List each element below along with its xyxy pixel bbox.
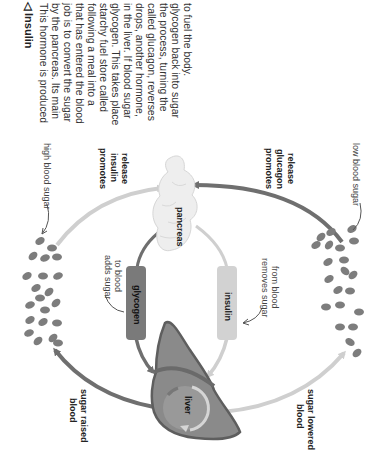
label-promotes-insulin-3: release: [120, 153, 131, 184]
caption-line: called glucagon, reverses: [145, 3, 157, 121]
label-liver: liver: [183, 396, 194, 415]
label-adds-sugar-1: adds sugar: [103, 255, 113, 300]
label-promotes-glucagon-2: glucagon: [275, 149, 286, 189]
label-insulin: insulin: [223, 292, 234, 321]
label-removes-sugar-1: removes sugar: [260, 258, 270, 318]
caption-line: the process, turning the: [157, 3, 169, 112]
label-sugar-raised-1: blood: [68, 398, 79, 423]
label-high-blood-sugar: high blood sugar: [42, 143, 52, 210]
caption-line: drops, another hormone,: [133, 3, 145, 117]
arrow-liver-to-low-sugar: [222, 353, 344, 412]
label-promotes-insulin-2: insulin: [109, 153, 120, 182]
arrow-low-sugar-to-pancreas: [194, 185, 342, 242]
label-promotes-insulin-1: promotes: [98, 148, 109, 189]
label-removes-sugar-2: from blood: [270, 266, 280, 309]
triangle-marker-icon: ◁: [23, 2, 35, 10]
caption-line: glycogen. This takes place: [109, 3, 121, 125]
connector-pancreas-insulin: [196, 226, 227, 268]
caption-line: glycogen back into sugar: [169, 3, 181, 118]
label-sugar-lowered-2: sugar lowered: [306, 389, 317, 450]
label-glycogen: glycogen: [132, 285, 143, 325]
blood-cells-low-sugar: [310, 223, 364, 358]
connector-insulin-liver: [208, 338, 227, 376]
label-adds-sugar-2: to blood: [113, 260, 123, 292]
caption-line: in the liver. If blood sugar: [121, 3, 133, 119]
caption-heading: ◁ Insulin: [22, 2, 35, 49]
caption-line: by the pancreas. Its main: [49, 3, 61, 119]
connector-glycogen-liver: [136, 338, 153, 372]
caption-line: following a meal into a: [85, 3, 97, 106]
caption-line: that has entered the blood: [73, 3, 85, 124]
diagram-stage: ◁ Insulin This hormone is produced by th…: [0, 0, 375, 468]
caption-line: This hormone is produced: [37, 3, 49, 123]
label-promotes-glucagon-3: release: [286, 153, 297, 184]
label-sugar-lowered-1: blood: [295, 404, 306, 429]
caption-line: to fuel the body.: [181, 3, 193, 76]
connector-pancreas-glycogen: [137, 233, 158, 268]
caption-line: job is to convert the sugar: [61, 3, 73, 122]
arrow-high-sugar-to-pancreas: [57, 188, 162, 245]
label-pancreas: pancreas: [175, 207, 186, 247]
caption-line: starchy fuel store called: [97, 3, 109, 112]
label-low-blood-sugar: low blood sugar: [351, 143, 361, 206]
label-promotes-glucagon-1: promotes: [264, 148, 275, 189]
blood-cells-high-sugar: [21, 235, 64, 346]
label-sugar-raised-2: sugar raised: [79, 389, 90, 443]
